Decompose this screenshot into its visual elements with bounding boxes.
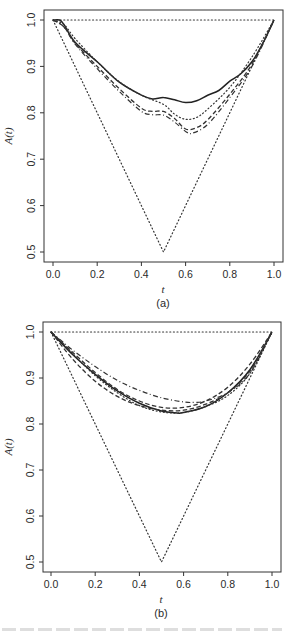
y-tick-label: 1.0 xyxy=(24,325,36,340)
cut-off-caption xyxy=(2,628,282,631)
x-tick-label: 0.0 xyxy=(44,578,59,590)
series-layer xyxy=(53,20,274,252)
x-tick-label: 0.6 xyxy=(176,578,191,590)
panel-b: 0.00.20.40.60.81.0 0.50.60.70.80.91.0 t … xyxy=(2,322,281,619)
x-tick-label: 0.8 xyxy=(220,578,235,590)
series-layer xyxy=(51,332,272,562)
y-tick-label: 0.6 xyxy=(25,198,37,213)
y-tick-label: 0.6 xyxy=(24,509,36,524)
y-tick-label: 0.9 xyxy=(24,371,36,386)
y-tick-label: 0.7 xyxy=(24,463,36,478)
series-fit-dotdash xyxy=(51,332,272,402)
panel-label: (b) xyxy=(154,607,167,619)
y-tick-label: 0.8 xyxy=(24,417,36,432)
series-fit-dashed-upper xyxy=(51,332,272,408)
x-tick-label: 0.2 xyxy=(88,578,103,590)
y-tick-label: 0.7 xyxy=(25,152,37,167)
x-tick-label: 0.4 xyxy=(134,268,149,280)
x-tick-label: 0.8 xyxy=(222,268,237,280)
x-axis: 0.00.20.40.60.81.0 xyxy=(44,572,280,590)
panel-a: 0.00.20.40.60.81.0 0.50.60.70.80.91.0 t … xyxy=(2,10,283,309)
x-tick-label: 0.4 xyxy=(132,578,147,590)
figure: 0.00.20.40.60.81.0 0.50.60.70.80.91.0 t … xyxy=(0,0,296,634)
x-axis-label: t xyxy=(159,593,163,605)
panel-label: (a) xyxy=(156,297,169,309)
y-tick-label: 0.5 xyxy=(24,555,36,570)
y-tick-label: 0.5 xyxy=(25,245,37,260)
y-tick-label: 0.8 xyxy=(25,105,37,120)
series-bound-lower xyxy=(53,20,274,252)
x-tick-label: 0.2 xyxy=(90,268,105,280)
x-tick-label: 0.6 xyxy=(178,268,193,280)
x-tick-label: 0.0 xyxy=(46,268,61,280)
x-tick-label: 1.0 xyxy=(267,268,282,280)
y-axis: 0.50.60.70.80.91.0 xyxy=(24,325,43,570)
y-axis-label: A(t) xyxy=(2,127,15,145)
series-bound-lower xyxy=(51,332,272,562)
x-axis: 0.00.20.40.60.81.0 xyxy=(46,262,282,280)
series-fit-dashed-lower xyxy=(51,332,272,411)
series-estimate-dotdash xyxy=(53,20,274,134)
y-axis: 0.50.60.70.80.91.0 xyxy=(25,13,44,260)
series-estimate-dashed xyxy=(53,20,274,130)
x-axis-label: t xyxy=(161,283,165,295)
y-axis-label: A(t) xyxy=(2,438,15,456)
y-tick-label: 1.0 xyxy=(25,13,37,28)
x-tick-label: 1.0 xyxy=(265,578,280,590)
series-estimate-dotted xyxy=(53,20,274,119)
y-tick-label: 0.9 xyxy=(25,59,37,74)
